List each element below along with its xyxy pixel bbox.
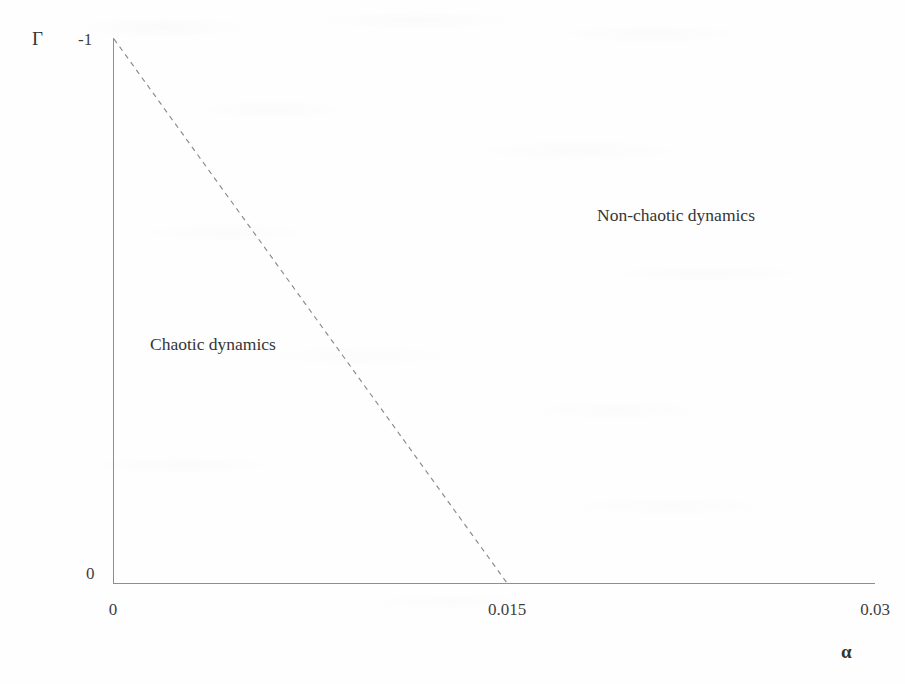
x-tick-label-003: 0.03 (860, 601, 890, 618)
x-tick-label-0015: 0.015 (488, 601, 526, 618)
region-label-non-chaotic: Non-chaotic dynamics (597, 207, 755, 225)
x-tick-label-zero: 0 (109, 601, 118, 618)
y-tick-label-zero: 0 (86, 565, 95, 582)
y-axis-line (113, 38, 114, 584)
y-axis-title: Γ (32, 28, 43, 50)
phase-diagram-figure: Γ α -1 0 0 0.015 0.03 Chaotic dynamics N… (0, 0, 905, 684)
scan-texture-overlay (0, 0, 905, 684)
x-axis-line (113, 583, 875, 584)
stability-boundary-line (0, 0, 905, 684)
x-axis-title: α (841, 641, 852, 663)
region-label-chaotic: Chaotic dynamics (150, 336, 276, 354)
y-tick-label-minus-one: -1 (78, 31, 92, 48)
